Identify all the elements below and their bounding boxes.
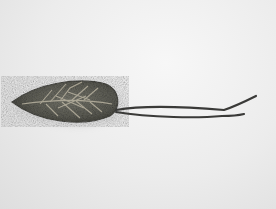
cords <box>116 96 256 117</box>
cord-upper <box>116 96 256 110</box>
cord-lower <box>116 112 244 117</box>
leaf-object-illustration <box>0 0 276 209</box>
leaf-body <box>12 81 118 122</box>
photo-scene <box>0 0 276 209</box>
